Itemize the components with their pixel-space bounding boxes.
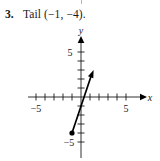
x-axis-tick-label-negative-five: −5 <box>31 103 42 114</box>
exercise-figure: 3. Tail (−1, −4). <box>0 0 160 161</box>
problem-text: Tail (−1, −4). <box>23 8 86 20</box>
y-axis-label: y <box>78 26 84 36</box>
vector-tail-dot <box>69 130 74 135</box>
x-axis-label: x <box>147 92 153 103</box>
graph-svg: x y −5 5 5 −5 <box>0 26 160 161</box>
y-axis-tick-label-positive-five: 5 <box>68 47 73 58</box>
problem-statement: 3. Tail (−1, −4). <box>0 8 160 26</box>
x-axis-arrowhead <box>140 94 147 101</box>
vector-arrow <box>69 70 93 136</box>
y-axis-tick-label-negative-five: −5 <box>64 137 75 148</box>
problem-number: 3. <box>5 8 14 20</box>
y-axis-arrowhead <box>78 36 85 43</box>
scan-artifact <box>81 0 82 4</box>
x-axis <box>28 94 147 101</box>
vector-arrowhead <box>88 70 94 78</box>
coordinate-graph: x y −5 5 5 −5 <box>0 26 160 161</box>
x-axis-tick-label-positive-five: 5 <box>124 103 129 114</box>
